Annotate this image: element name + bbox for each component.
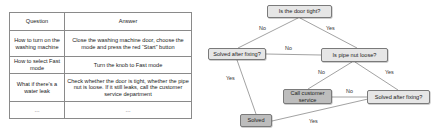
node-solved-after-fixing-right: Solved after fixing?	[367, 90, 430, 104]
edge-label-door-no: No	[259, 25, 266, 31]
edge-pipe-yes	[355, 62, 398, 90]
edge-left-yes	[237, 60, 256, 114]
edge-label-left-no: No	[285, 45, 292, 51]
node-call-customer-service: Call customer service	[283, 89, 332, 104]
edge-label-right-yes: Yes	[309, 118, 318, 124]
edge-left-no	[266, 54, 321, 55]
edge-label-pipe-yes: Yes	[385, 69, 394, 75]
edge-door-yes	[300, 18, 357, 48]
node-pipe-nut-loose: Is pipe nut loose?	[321, 48, 388, 62]
flowchart-connectors	[0, 0, 439, 132]
edge-label-pipe-no: No	[318, 69, 325, 75]
node-solved-after-fixing-left: Solved after fixing?	[208, 48, 266, 60]
edge-label-door-yes: Yes	[326, 25, 335, 31]
edge-pipe-no	[308, 62, 352, 89]
edge-label-right-no: No	[346, 88, 353, 94]
edge-door-no	[238, 18, 298, 48]
edge-label-left-yes: Yes	[226, 75, 235, 81]
troubleshooting-flowchart: Is the door tight? Solved after fixing? …	[0, 0, 439, 132]
node-door-tight: Is the door tight?	[267, 5, 332, 18]
node-solved: Solved	[240, 114, 272, 127]
